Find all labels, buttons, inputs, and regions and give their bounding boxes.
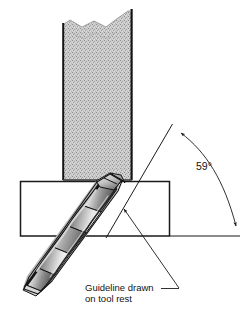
angle-arc bbox=[181, 133, 236, 226]
grinding-wheel-body bbox=[64, 11, 131, 180]
technical-diagram: 59° Guideline drawn on tool rest bbox=[0, 0, 246, 323]
angle-dimension: 59° bbox=[181, 133, 236, 226]
angle-value-label: 59° bbox=[196, 160, 212, 172]
grinding-wheel bbox=[63, 9, 132, 180]
figure-canvas: 59° Guideline drawn on tool rest bbox=[0, 0, 246, 323]
callout-line-1: Guideline drawn bbox=[85, 282, 154, 293]
callout-line-2: on tool rest bbox=[85, 293, 132, 304]
